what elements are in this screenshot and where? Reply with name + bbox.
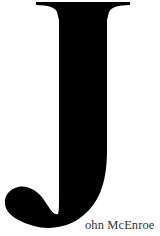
letter-j-glyph — [0, 0, 160, 236]
drop-cap-letter-j: J — [0, 0, 160, 236]
name-remainder-text: ohn McEnroe — [85, 219, 154, 232]
